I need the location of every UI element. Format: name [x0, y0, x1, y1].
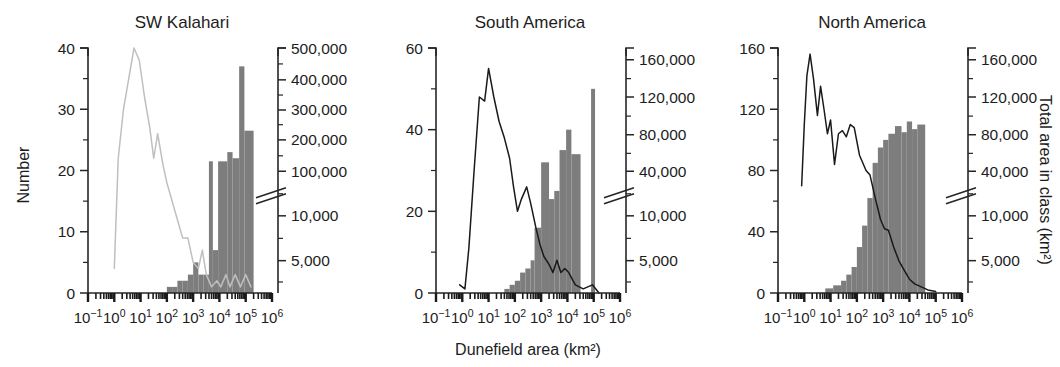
right-axis-break-marker-2	[604, 188, 634, 204]
x-axis-tick-label: 106	[609, 307, 632, 326]
bar	[520, 273, 525, 293]
break-slash	[946, 188, 976, 198]
left-axis-tick-label: 20	[58, 162, 76, 179]
left-axis-tick-label: 0	[756, 285, 765, 302]
x-axis-tick-label: 103	[530, 307, 553, 326]
left-axis-tick-label: 40	[748, 223, 766, 240]
right-axis-tick-label: 120,000	[981, 89, 1037, 106]
bar-series-1	[167, 66, 254, 293]
bar	[862, 226, 867, 293]
left-axis-tick-label: 0	[414, 285, 423, 302]
bar	[883, 140, 888, 293]
left-axis-tick-label: 0	[66, 285, 75, 302]
left-axis-tick-label: 160	[739, 40, 765, 57]
break-slash	[604, 194, 634, 204]
right-axis-tick-label: 10,000	[981, 207, 1029, 224]
x-axis-tick-label: 104	[898, 307, 921, 326]
x-axis-tick-label: 100	[793, 307, 816, 326]
bar	[912, 129, 917, 293]
bar-series-3	[825, 122, 925, 294]
bar	[888, 134, 895, 293]
dunefield-area-figure: SW Kalahari01020304010−11001011021031041…	[0, 0, 1060, 367]
bar	[841, 281, 846, 293]
x-axis-tick-label: 104	[208, 307, 231, 326]
left-axis-tick-label: 120	[739, 101, 765, 118]
x-axis-tick-label: 106	[951, 307, 974, 326]
right-axis-break-marker-1	[256, 188, 286, 204]
x-axis-tick-label: 101	[819, 307, 842, 326]
panel-1: SW Kalahari01020304010−11001011021031041…	[58, 13, 348, 326]
right-axis-tick-label: 80,000	[981, 126, 1029, 143]
right-axis-tick-label: 100,000	[291, 163, 347, 180]
bar	[188, 275, 193, 293]
break-slash	[604, 188, 634, 198]
bar	[213, 250, 218, 293]
bar	[167, 287, 172, 293]
x-axis-tick-label: 106	[261, 307, 284, 326]
x-axis-tick-label: 10−1	[764, 307, 793, 326]
right-axis-tick-label: 120,000	[639, 89, 695, 106]
bar	[917, 125, 925, 293]
x-axis-tick-label: 101	[477, 307, 500, 326]
bar	[833, 285, 841, 293]
break-slash	[946, 194, 976, 204]
break-slash	[256, 194, 286, 204]
bar	[531, 260, 535, 293]
panel-title-3: North America	[818, 13, 926, 32]
bar	[510, 285, 515, 293]
bar	[541, 162, 549, 293]
x-axis-tick-label: 102	[504, 307, 527, 326]
bar	[857, 247, 862, 293]
bar-series-2	[504, 89, 595, 293]
bar	[591, 89, 595, 293]
x-axis-tick-label: 103	[182, 307, 205, 326]
right-axis-break-marker-3	[946, 188, 976, 204]
right-axis-tick-label: 160,000	[981, 51, 1037, 68]
x-axis-tick-label: 103	[872, 307, 895, 326]
left-axis-tick-label: 80	[748, 162, 766, 179]
bar	[172, 287, 177, 293]
bar	[183, 281, 188, 293]
left-axis-top-corner	[770, 48, 778, 56]
x-axis-tick-label: 102	[846, 307, 869, 326]
right-axis-tick-label: 80,000	[639, 126, 687, 143]
right-axis-tick-label: 200,000	[291, 131, 347, 148]
right-axis-tick-label: 5,000	[981, 252, 1020, 269]
bar	[554, 191, 559, 293]
bar	[566, 130, 571, 293]
right-axis-tick-label: 300,000	[291, 101, 347, 118]
right-axis-tick-label: 5,000	[639, 252, 678, 269]
right-axis-tick-label: 10,000	[291, 207, 339, 224]
left-axis-tick-label: 40	[58, 40, 76, 57]
x-axis-title: Dunefield area (km²)	[455, 341, 601, 358]
right-axis-top-corner	[626, 48, 634, 56]
break-slash	[256, 188, 286, 198]
x-axis-tick-label: 102	[156, 307, 179, 326]
x-axis-tick-label: 104	[556, 307, 579, 326]
right-axis-top-corner	[968, 48, 976, 56]
y-axis-title-left: Number	[15, 146, 32, 204]
right-axis-tick-label: 40,000	[981, 163, 1029, 180]
panel-title-2: South America	[475, 13, 586, 32]
right-axis-tick-label: 400,000	[291, 71, 347, 88]
bar	[549, 199, 554, 293]
x-axis-tick-label: 100	[103, 307, 126, 326]
left-axis-tick-label: 20	[406, 203, 424, 220]
bar	[244, 131, 253, 293]
bar	[233, 158, 240, 293]
bar	[239, 66, 244, 293]
right-axis-tick-label: 40,000	[639, 163, 687, 180]
y-axis-title-right: Total area in class (km²)	[1037, 95, 1054, 265]
left-axis-tick-label: 40	[406, 121, 424, 138]
bar	[867, 198, 872, 293]
bar	[846, 275, 851, 293]
x-axis-tick-label: 100	[451, 307, 474, 326]
right-axis-top-corner	[278, 48, 286, 56]
bar	[571, 154, 580, 293]
left-axis-tick-label: 10	[58, 223, 76, 240]
bar	[895, 126, 902, 293]
left-axis-top-corner	[80, 48, 88, 56]
figure-root: SW Kalahari01020304010−11001011021031041…	[0, 0, 1060, 367]
x-axis-tick-label: 105	[924, 307, 947, 326]
bar	[515, 281, 520, 293]
